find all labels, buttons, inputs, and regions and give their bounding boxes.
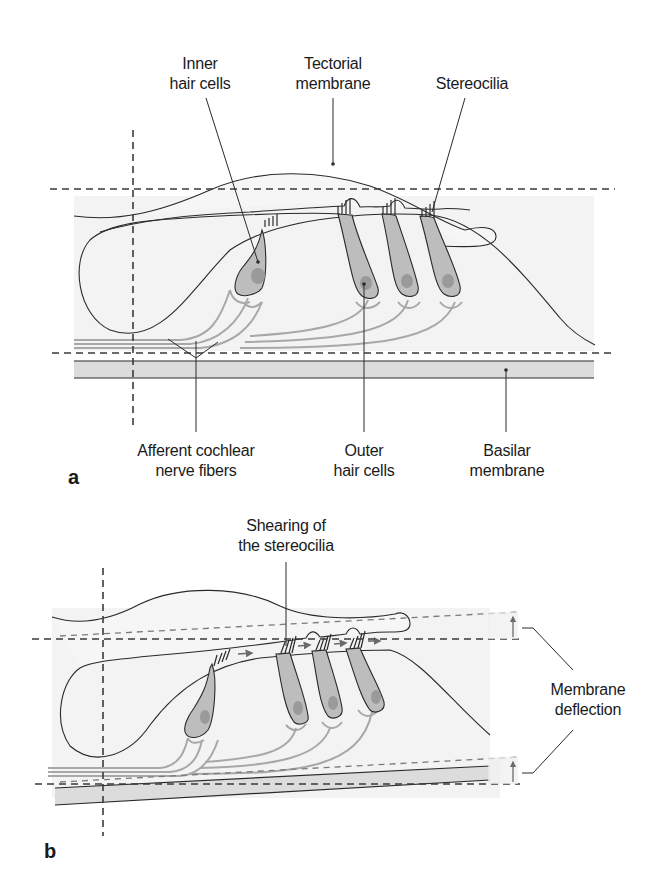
panel-letter-a: a — [68, 466, 79, 489]
label-line: Basilar — [470, 441, 545, 461]
panel-letter-b: b — [44, 840, 56, 863]
label-stereocilia: Stereocilia — [436, 74, 509, 94]
label-line: Tectorial — [296, 54, 371, 74]
label-basilar-membrane: Basilar membrane — [470, 441, 545, 481]
label-line: membrane — [470, 461, 545, 481]
label-membrane-deflection: Membrane deflection — [551, 680, 626, 720]
label-inner-hair-cells: Inner hair cells — [169, 54, 230, 94]
label-line: Inner — [169, 54, 230, 74]
label-line: hair cells — [333, 461, 394, 481]
label-tectorial-membrane: Tectorial membrane — [296, 54, 371, 94]
label-line: Membrane — [551, 680, 626, 700]
label-outer-hair-cells: Outer hair cells — [333, 441, 394, 481]
panel-a — [50, 98, 615, 432]
label-line: nerve fibers — [137, 461, 254, 481]
cochlear-diagram — [0, 0, 653, 873]
label-line: deflection — [551, 700, 626, 720]
label-afferent-nerve-fibers: Afferent cochlear nerve fibers — [137, 441, 254, 481]
label-line: hair cells — [169, 74, 230, 94]
label-line: the stereocilia — [238, 536, 334, 556]
label-shearing-stereocilia: Shearing of the stereocilia — [238, 516, 334, 556]
label-line: membrane — [296, 74, 371, 94]
label-line: Shearing of — [238, 516, 334, 536]
label-line: Stereocilia — [436, 74, 509, 94]
label-line: Afferent cochlear — [137, 441, 254, 461]
basilar-membrane — [74, 361, 594, 378]
panel-b — [32, 562, 573, 836]
label-line: Outer — [333, 441, 394, 461]
